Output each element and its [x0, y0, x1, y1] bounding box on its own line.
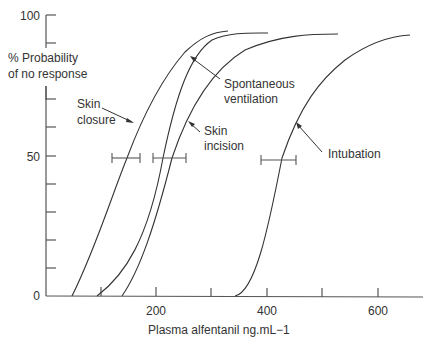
y-axis-label-line1: % Probability — [8, 51, 78, 65]
x-tick-200: 200 — [146, 304, 166, 318]
label-skin-incision-2: incision — [204, 139, 244, 153]
label-intubation: Intubation — [328, 147, 381, 161]
label-skin-closure-1: Skin — [77, 97, 100, 111]
x-axis-label: Plasma alfentanil ng.mL−1 — [148, 323, 290, 337]
y-tick-100: 100 — [20, 9, 40, 23]
label-spontaneous-1: Spontaneous — [224, 77, 295, 91]
annotation-skin-closure: Skin closure — [77, 97, 134, 127]
curve-spontaneous-ventilation — [97, 33, 268, 296]
x-tick-400: 400 — [257, 304, 277, 318]
curve-skin-incision — [122, 34, 338, 296]
y-axis: 100 50 0 % Probability of no response — [0, 9, 90, 303]
error-bar-incision-ventilation — [153, 153, 186, 163]
error-bar-intubation — [261, 155, 296, 165]
arrowhead-icon — [126, 118, 134, 123]
annotation-spontaneous-ventilation: Spontaneous ventilation — [190, 56, 295, 106]
y-tick-50: 50 — [27, 150, 41, 164]
annotation-intubation: Intubation — [296, 122, 381, 161]
y-tick-0: 0 — [33, 289, 40, 303]
label-spontaneous-2: ventilation — [224, 92, 278, 106]
y-axis-label-line2: of no response — [8, 67, 88, 81]
label-skin-closure-2: closure — [77, 113, 116, 127]
annotation-skin-incision: Skin incision — [188, 121, 244, 153]
dose-response-chart: 100 50 0 % Probability of no response 20… — [0, 0, 434, 348]
x-axis: 200 400 600 Plasma alfentanil ng.mL−1 — [46, 287, 423, 337]
curve-skin-closure — [72, 31, 228, 296]
x-tick-600: 600 — [368, 304, 388, 318]
curve-intubation — [235, 35, 410, 296]
label-skin-incision-1: Skin — [204, 124, 227, 138]
